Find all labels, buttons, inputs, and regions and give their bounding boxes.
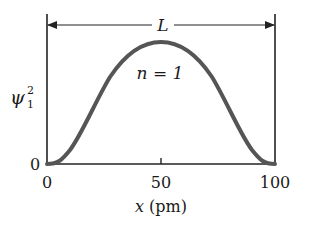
x-tick-label-100: 100 bbox=[260, 173, 291, 192]
y-axis-label-sup: 2 bbox=[27, 84, 34, 97]
y-axis-label-sub: 1 bbox=[27, 98, 34, 111]
x-tick-label-0: 0 bbox=[42, 173, 52, 192]
box-length-label: L bbox=[156, 15, 168, 35]
x-axis-label: x (pm) bbox=[135, 197, 187, 216]
y-tick-0: 0 bbox=[30, 155, 40, 174]
y-axis-label: ψ bbox=[10, 86, 26, 108]
chart: L n = 1 ψ 2 1 0 0 50 100 x (pm) bbox=[0, 0, 310, 232]
probability-density-curve bbox=[47, 42, 275, 164]
quantum-number-label: n = 1 bbox=[137, 63, 184, 83]
x-tick-label-50: 50 bbox=[151, 173, 171, 192]
